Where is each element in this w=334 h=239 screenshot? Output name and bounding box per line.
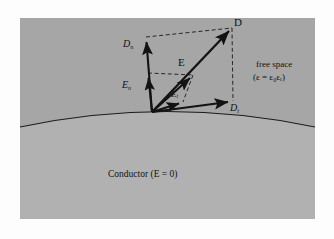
dashed-dn-to-d [146, 28, 232, 37]
vector-label-D: D [234, 17, 242, 28]
permittivity-expression: (ε = ε₀εᵣ) [253, 73, 285, 82]
subscript-n: n [128, 84, 131, 91]
dashed-d-to-dt [232, 28, 233, 101]
vector-label-Et: Et [171, 90, 178, 100]
vector-D [152, 31, 229, 112]
field-vectors [147, 31, 230, 112]
conductor-label: Conductor (E = 0) [108, 170, 177, 180]
vector-label-En: En [122, 80, 131, 91]
subscript-t: t [177, 93, 179, 99]
vector-label-E: E [178, 57, 185, 68]
vector-Dt [152, 102, 228, 112]
vector-label-Dt: Dt [230, 103, 239, 114]
subscript-n: n [130, 43, 133, 50]
subscript-t: t [237, 107, 239, 114]
vector-label-Dn: Dn [123, 39, 133, 50]
diagram-canvas [0, 0, 334, 239]
conductor-surface-region [20, 112, 315, 220]
free-space-label: free space [256, 60, 292, 69]
figure-root: D E Dn En Et Dt free space (ε = ε₀εᵣ) Co… [0, 0, 334, 239]
